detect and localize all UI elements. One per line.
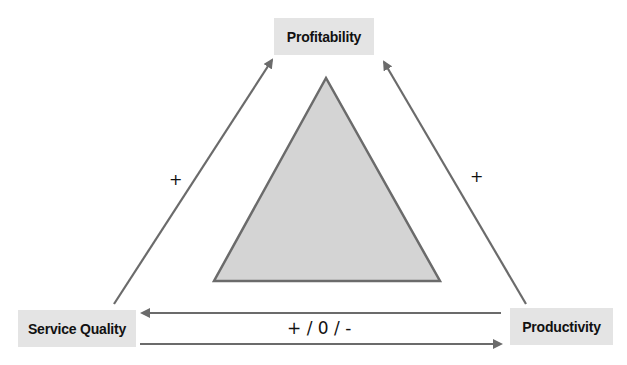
- node-productivity: Productivity: [510, 308, 613, 345]
- node-profitability: Profitability: [274, 18, 374, 55]
- node-service-quality-label: Service Quality: [28, 321, 126, 337]
- sign-label-bottom: + / 0 / -: [287, 320, 351, 337]
- node-service-quality: Service Quality: [18, 310, 136, 347]
- node-productivity-label: Productivity: [522, 319, 601, 335]
- central-triangle: [214, 78, 440, 281]
- node-profitability-label: Profitability: [287, 29, 361, 45]
- sign-label-left: +: [169, 172, 182, 188]
- sign-label-right: +: [470, 169, 483, 185]
